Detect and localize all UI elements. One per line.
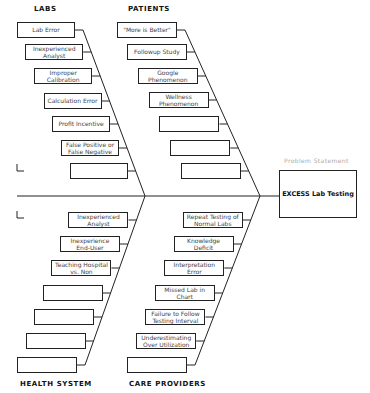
cause-box-health-system: Inexperience End-User: [60, 236, 120, 252]
cause-text: "More is Better": [123, 26, 171, 34]
cause-text: Lab Error: [32, 26, 59, 34]
cause-box-labs: Lab Error: [17, 22, 75, 38]
cause-box-labs: Inexperienced Analyst: [25, 44, 83, 60]
category-health-system: HEALTH SYSTEM: [20, 380, 92, 388]
cause-text: Underestimating Over Utilization: [139, 334, 193, 349]
cause-text: Interpretation Error: [167, 261, 221, 276]
cause-box-care-providers: Failure to Follow Testing Interval: [145, 309, 205, 325]
cause-text: Inexperienced Analyst: [28, 45, 80, 60]
cause-box-labs: Improper Calibration: [34, 68, 92, 84]
cause-box-patients: [159, 116, 219, 132]
cause-box-care-providers: Interpretation Error: [164, 260, 224, 276]
cause-box-health-system: Teaching Hospital vs. Non: [51, 260, 111, 276]
cause-box-labs: [70, 163, 128, 179]
cause-box-health-system: [34, 309, 94, 325]
cause-text: Repeat Testing of Normal Labs: [186, 213, 240, 228]
cause-box-health-system: [17, 357, 77, 373]
cause-text: Improper Calibration: [37, 69, 89, 84]
cause-box-health-system: [43, 285, 103, 301]
category-care-providers: CARE PROVIDERS: [129, 380, 206, 388]
cause-box-care-providers: [127, 357, 187, 373]
cause-box-patients: Followup Study: [127, 44, 187, 60]
cause-text: Inexperienced Analyst: [71, 213, 125, 228]
cause-text: Teaching Hospital vs. Non: [54, 261, 108, 276]
category-patients: PATIENTS: [128, 5, 170, 13]
cause-box-patients: [170, 140, 230, 156]
cause-text: Missed Lab in Chart: [158, 286, 212, 301]
cause-box-patients: Wellness Phenomenon: [149, 92, 209, 108]
cause-box-care-providers: Underestimating Over Utilization: [136, 333, 196, 349]
cause-text: Failure to Follow Testing Interval: [148, 310, 202, 325]
cause-text: Google Phenomenon: [141, 69, 195, 84]
problem-statement-text: EXCESS Lab Testing: [282, 190, 354, 198]
category-labs: LABS: [34, 5, 57, 13]
cause-box-care-providers: Missed Lab in Chart: [155, 285, 215, 301]
cause-box-patients: [181, 163, 241, 179]
cause-text: Profit Incentive: [59, 120, 104, 128]
problem-statement-label: Problem Statement: [284, 157, 349, 164]
cause-box-care-providers: Knowledge Deficit: [174, 236, 234, 252]
cause-box-health-system: Inexperienced Analyst: [68, 212, 128, 228]
cause-text: Calculation Error: [48, 97, 98, 105]
cause-box-labs: Profit Incentive: [52, 116, 110, 132]
corner-mark-bottom: [17, 211, 24, 218]
cause-text: False Positive or False Negative: [64, 141, 116, 156]
cause-box-patients: "More is Better": [117, 22, 177, 38]
cause-text: Wellness Phenomenon: [152, 93, 206, 108]
cause-text: Inexperience End-User: [63, 237, 117, 252]
cause-box-health-system: [26, 333, 86, 349]
cause-text: Knowledge Deficit: [177, 237, 231, 252]
cause-text: Followup Study: [134, 48, 180, 56]
cause-box-labs: Calculation Error: [44, 93, 102, 109]
corner-mark-top: [17, 164, 24, 171]
cause-box-labs: False Positive or False Negative: [61, 140, 119, 156]
cause-box-patients: Google Phenomenon: [138, 68, 198, 84]
cause-box-care-providers: Repeat Testing of Normal Labs: [183, 212, 243, 228]
problem-statement-box: EXCESS Lab Testing: [279, 170, 357, 218]
